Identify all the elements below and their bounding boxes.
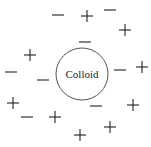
- plus-sign-icon: [24, 49, 36, 61]
- plus-sign-icon: [81, 10, 93, 22]
- plus-sign-icon: [74, 129, 86, 141]
- plus-sign-icon: [119, 24, 131, 36]
- plus-sign-icon: [7, 97, 19, 109]
- plus-sign-icon: [49, 111, 61, 123]
- plus-sign-icon: [136, 61, 148, 73]
- plus-sign-icon: [104, 121, 116, 133]
- plus-sign-icon: [127, 99, 139, 111]
- colloid-diagram: Colloid: [0, 0, 151, 147]
- colloid-label: Colloid: [65, 68, 99, 80]
- diagram-svg: Colloid: [0, 0, 151, 147]
